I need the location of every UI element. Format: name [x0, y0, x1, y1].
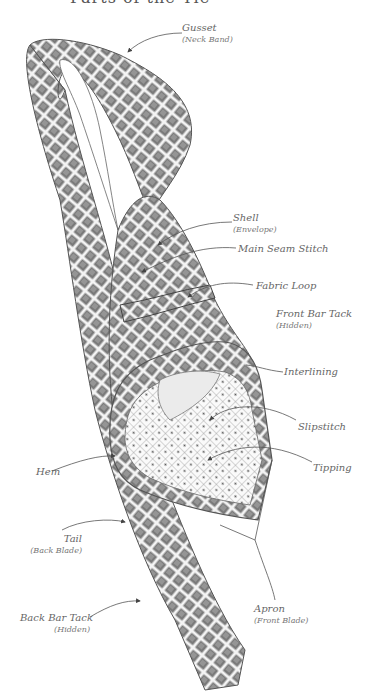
leader-tail — [62, 520, 125, 530]
label-tail-name: Tail — [64, 533, 82, 544]
label-interlining-name: Interlining — [284, 366, 338, 377]
label-shell-sub: (Envelope) — [233, 224, 277, 236]
leader-back-bar-tack — [90, 601, 140, 617]
label-slipstitch-name: Slipstitch — [298, 421, 346, 432]
label-main-seam-stitch: Main Seam Stitch — [238, 243, 329, 255]
label-gusset-sub: (Neck Band) — [182, 34, 233, 46]
label-front-bar-tack: Front Bar Tack (Hidden) — [276, 308, 352, 332]
label-back-bar-tack-sub: (Hidden) — [20, 624, 90, 636]
leader-gusset — [128, 33, 182, 52]
label-tail-sub: (Back Blade) — [20, 545, 82, 557]
label-hem-name: Hem — [36, 466, 60, 477]
label-apron-name: Apron — [254, 603, 285, 614]
label-shell-name: Shell — [233, 212, 259, 223]
label-apron: Apron (Front Blade) — [254, 603, 308, 627]
label-hem: Hem — [36, 466, 60, 478]
label-fabric-loop-name: Fabric Loop — [256, 280, 316, 291]
label-interlining: Interlining — [284, 366, 338, 378]
label-tipping-name: Tipping — [313, 462, 352, 473]
label-tail: Tail (Back Blade) — [20, 533, 82, 557]
label-main-seam-stitch-name: Main Seam Stitch — [238, 243, 329, 254]
label-front-bar-tack-sub: (Hidden) — [276, 320, 352, 332]
label-slipstitch: Slipstitch — [298, 421, 346, 433]
label-front-bar-tack-name: Front Bar Tack — [276, 308, 352, 319]
label-back-bar-tack-name: Back Bar Tack — [20, 612, 93, 623]
label-gusset: Gusset (Neck Band) — [182, 22, 233, 46]
label-tipping: Tipping — [313, 462, 352, 474]
tie-illustration — [0, 0, 366, 698]
leader-hem — [52, 456, 115, 471]
label-back-bar-tack: Back Bar Tack (Hidden) — [20, 612, 90, 636]
label-shell: Shell (Envelope) — [233, 212, 277, 236]
label-fabric-loop: Fabric Loop — [256, 280, 316, 292]
label-gusset-name: Gusset — [182, 22, 217, 33]
label-apron-sub: (Front Blade) — [254, 615, 308, 627]
